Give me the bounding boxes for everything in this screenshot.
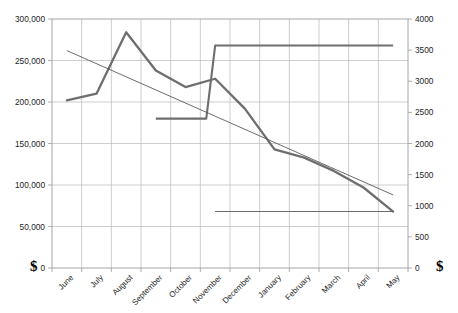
left-axis-tick-labels: 050,000100,000150,000200,000250,000300,0…	[15, 14, 45, 273]
x-axis-month-label: July	[88, 273, 104, 289]
left-axis-tick-label: 300,000	[15, 14, 45, 24]
right-axis-ticks	[408, 19, 412, 268]
right-axis-tick-labels: 05001000150020002500300035004000	[415, 14, 434, 273]
left-axis-tick-label: 100,000	[15, 180, 45, 190]
x-axis-month-label: October	[167, 273, 194, 300]
right-axis-tick-label: 0	[415, 263, 420, 273]
x-axis-month-label: September	[130, 273, 164, 307]
x-axis-month-labels: JuneJulyAugustSeptemberOctoberNovemberDe…	[57, 273, 402, 308]
chart-container: 050,000100,000150,000200,000250,000300,0…	[0, 0, 458, 313]
left-axis-ticks	[48, 19, 52, 268]
x-axis-month-label: March	[320, 273, 342, 295]
right-axis-tick-label: 4000	[415, 14, 434, 24]
right-axis-tick-label: 1000	[415, 201, 434, 211]
x-axis-month-label: June	[57, 273, 76, 292]
x-axis-month-label: August	[111, 273, 136, 298]
series-step-line	[156, 46, 393, 119]
left-axis-tick-label: 0	[40, 263, 45, 273]
right-axis-tick-label: 3000	[415, 76, 434, 86]
x-axis-month-label: May	[385, 273, 402, 290]
right-axis-tick-label: 2500	[415, 107, 434, 117]
right-axis-tick-label: 1500	[415, 170, 434, 180]
x-axis-month-label: February	[284, 273, 313, 302]
right-axis-tick-label: 500	[415, 232, 429, 242]
left-axis-tick-label: 50,000	[20, 222, 46, 232]
x-axis-month-label: April	[354, 273, 372, 291]
right-axis-tick-label: 3500	[415, 45, 434, 55]
left-axis-tick-label: 200,000	[15, 97, 45, 107]
x-axis-month-label: January	[256, 273, 282, 299]
left-axis-tick-label: 250,000	[15, 56, 45, 66]
left-axis-currency-symbol: $	[30, 258, 38, 274]
right-axis-currency-symbol: $	[436, 258, 444, 274]
x-axis-month-label: November	[191, 273, 224, 306]
left-axis-tick-label: 150,000	[15, 139, 45, 149]
x-axis-month-label: December	[221, 273, 254, 306]
right-axis-tick-label: 2000	[415, 139, 434, 149]
line-chart: 050,000100,000150,000200,000250,000300,0…	[0, 0, 458, 313]
bottom-axis-ticks	[52, 268, 408, 272]
